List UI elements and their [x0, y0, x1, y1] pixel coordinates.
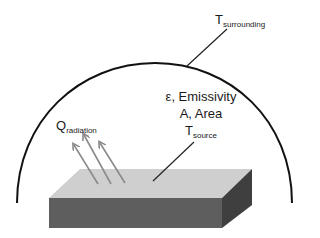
- source-properties-label: ε, Emissivity A, Area Tsource: [150, 88, 252, 144]
- source-temperature-label: Tsource: [150, 122, 252, 144]
- radiation-subscript: radiation: [66, 126, 97, 135]
- radiation-heat-label: Qradiation: [56, 119, 97, 135]
- source-subscript: source: [193, 131, 217, 140]
- slab-front-face: [49, 198, 222, 228]
- surrounding-temperature-label: Tsurrounding: [215, 13, 265, 29]
- slab-top-face: [49, 169, 252, 198]
- surrounding-subscript: surrounding: [223, 20, 265, 29]
- area-label: A, Area: [150, 105, 252, 122]
- surrounding-pointer-line: [187, 29, 227, 66]
- source-symbol: T: [185, 123, 193, 138]
- surrounding-symbol: T: [215, 12, 223, 27]
- emissivity-label: ε, Emissivity: [150, 88, 252, 105]
- radiation-symbol: Q: [56, 118, 66, 133]
